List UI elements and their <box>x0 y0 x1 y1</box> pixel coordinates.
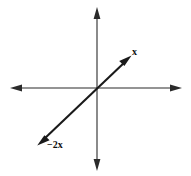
horizontal-axis-left-arrowhead-icon <box>10 85 22 92</box>
vector-x-minus-2x <box>37 56 131 146</box>
horizontal-axis-right-arrowhead-icon <box>170 85 182 92</box>
vector-diagram: x −2x <box>0 0 191 176</box>
vector-label-x: x <box>132 47 137 57</box>
vertical-axis-top-arrowhead-icon <box>94 7 101 19</box>
vertical-axis-bottom-arrowhead-icon <box>94 159 101 171</box>
vector-line <box>43 61 126 140</box>
diagram-canvas <box>0 0 191 176</box>
vector-label-minus-2x: −2x <box>47 140 63 150</box>
